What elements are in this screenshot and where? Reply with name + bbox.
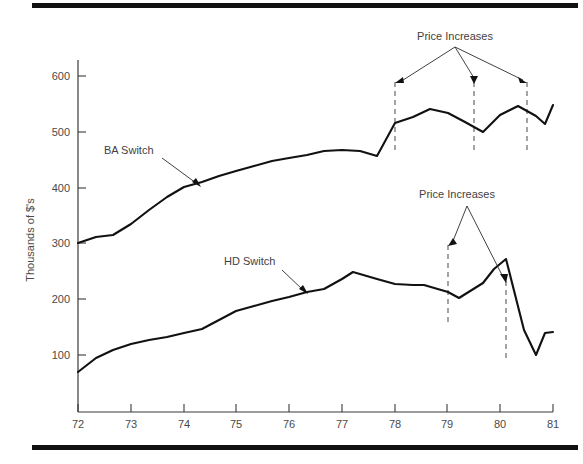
x-tick-label-76: 76: [283, 418, 295, 430]
series-label-text-ba: BA Switch: [104, 144, 154, 156]
annotation-label-hd: Price Increases: [419, 188, 495, 200]
y-axis-title: Thousands of $'s: [24, 198, 36, 282]
event-markers-hd: [448, 245, 506, 362]
annotation-price-increases-ba: Price Increases: [395, 30, 527, 84]
x-tick-label-79: 79: [441, 418, 453, 430]
x-tick-label-78: 78: [389, 418, 401, 430]
series-leader-hd: [282, 270, 303, 290]
x-axis: 72 73 74 75 76 77 78 79 80 81: [72, 404, 559, 430]
chart-figure: 600 500 400 300 200 100 Thousands of $'s…: [0, 0, 583, 464]
x-tick-label-80: 80: [494, 418, 506, 430]
x-tick-label-77: 77: [336, 418, 348, 430]
anno-leader-ba-1: [400, 47, 455, 82]
series-label-text-hd: HD Switch: [224, 255, 275, 267]
y-tick-label-100: 100: [52, 349, 70, 361]
series-label-hd-switch: HD Switch: [224, 255, 308, 294]
x-tick-label-72: 72: [72, 418, 84, 430]
y-tick-label-400: 400: [52, 182, 70, 194]
arrow-head-ba-2-icon: [470, 76, 478, 84]
x-tick-label-81: 81: [547, 418, 559, 430]
annotation-label-ba: Price Increases: [417, 30, 493, 42]
line-chart-plot: 600 500 400 300 200 100 Thousands of $'s…: [0, 0, 583, 464]
x-tick-label-75: 75: [230, 418, 242, 430]
y-tick-label-500: 500: [52, 126, 70, 138]
y-tick-label-300: 300: [52, 237, 70, 249]
arrow-head-ba-3-icon: [518, 77, 527, 83]
arrow-head-hd-1-icon: [448, 238, 457, 246]
anno-leader-hd-2: [467, 206, 503, 277]
y-tick-label-600: 600: [52, 70, 70, 82]
arrow-head-hd-2-icon: [500, 274, 508, 283]
series-label-ba-switch: BA Switch: [104, 144, 201, 187]
x-tick-label-74: 74: [178, 418, 190, 430]
y-tick-label-200: 200: [52, 293, 70, 305]
series-line-ba-switch: [78, 105, 553, 243]
arrow-head-ba-1-icon: [395, 77, 404, 83]
series-leader-ba: [162, 158, 196, 183]
anno-leader-hd-1: [453, 206, 467, 241]
y-axis: 600 500 400 300 200 100 Thousands of $'s: [24, 60, 86, 412]
x-tick-label-73: 73: [125, 418, 137, 430]
series-line-hd-switch: [78, 259, 553, 372]
